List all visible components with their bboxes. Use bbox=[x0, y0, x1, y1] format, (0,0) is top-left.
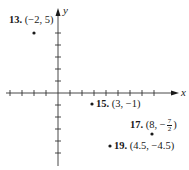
fraction: 72 bbox=[167, 118, 173, 133]
point-13 bbox=[32, 31, 35, 34]
point-number: 13. bbox=[9, 14, 22, 25]
point-15 bbox=[90, 102, 93, 105]
x-axis-arrow-icon bbox=[171, 91, 179, 96]
y-axis-arrow-icon bbox=[56, 8, 61, 16]
point-number: 19. bbox=[114, 140, 127, 151]
point-19 bbox=[108, 144, 111, 147]
point-coords-suffix: ) bbox=[173, 119, 177, 130]
x-axis-label: x bbox=[181, 87, 186, 98]
point-number: 17. bbox=[130, 119, 143, 130]
fraction-denominator: 2 bbox=[167, 126, 173, 133]
y-axis-label: y bbox=[63, 5, 68, 16]
point-coords: (3, −1) bbox=[112, 98, 141, 109]
point-number: 15. bbox=[96, 98, 109, 109]
point-coords-prefix: (8, − bbox=[146, 119, 166, 130]
point-label-15: 15. (3, −1) bbox=[96, 99, 140, 110]
point-coords: (−2, 5) bbox=[25, 14, 54, 25]
point-coords: (4.5, −4.5) bbox=[130, 140, 174, 151]
point-label-19: 19. (4.5, −4.5) bbox=[114, 141, 174, 152]
point-label-13: 13. (−2, 5) bbox=[9, 15, 53, 26]
point-label-17: 17. (8, −72) bbox=[130, 118, 177, 133]
